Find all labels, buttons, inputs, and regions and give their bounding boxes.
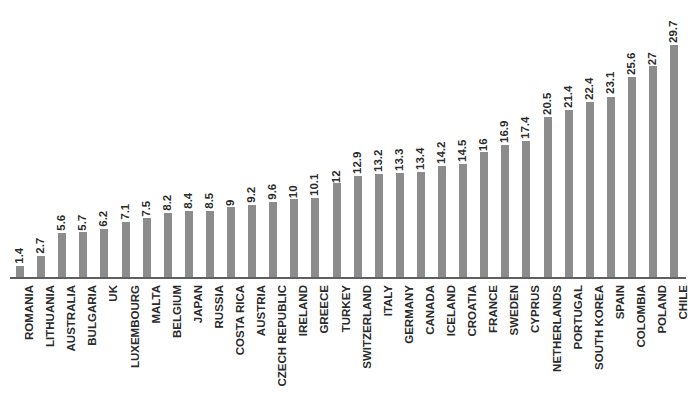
bar[interactable] [501,145,509,277]
bar-slot: 8.4 [179,0,199,279]
bar-slot: 7.5 [137,0,157,279]
category-label-slot: RUSSIA [200,281,220,415]
bar-slot: 20.5 [538,0,558,279]
plot-area: 1.42.75.65.76.27.17.58.28.48.599.29.6101… [0,0,699,279]
bar-value-label: 8.5 [204,192,216,208]
bar[interactable] [607,97,615,277]
bar[interactable] [290,199,298,277]
bar[interactable] [185,211,193,277]
bar-value-label: 29.7 [668,20,680,42]
bar-slot: 10 [284,0,304,279]
bar[interactable] [164,213,172,277]
category-label-slot: JAPAN [179,281,199,415]
bar-value-label: 13.4 [415,148,427,170]
bar-slot: 9 [221,0,241,279]
bar[interactable] [58,233,66,277]
bar[interactable] [628,77,636,277]
category-label-slot: GERMANY [390,281,410,415]
bar-value-label: 14.2 [436,141,448,163]
bar[interactable] [16,266,24,277]
bar[interactable] [122,222,130,277]
bar-slot: 16.9 [495,0,515,279]
bar[interactable] [649,66,657,277]
bar-slot: 23.1 [601,0,621,279]
bar-value-label: 2.7 [35,238,47,254]
bar-slot: 12.9 [348,0,368,279]
category-label-slot: TURKEY [327,281,347,415]
bar-slot: 21.4 [559,0,579,279]
bar[interactable] [459,164,467,277]
bar-slot: 22.4 [580,0,600,279]
bar-slot: 10.1 [305,0,325,279]
bar-value-label: 16.9 [500,120,512,142]
bar[interactable] [375,174,383,277]
bar[interactable] [248,205,256,277]
bar[interactable] [143,218,151,277]
bar[interactable] [396,173,404,277]
bar-value-label: 9.2 [246,187,258,203]
bar-slot: 13.2 [369,0,389,279]
bar-value-label: 12 [331,170,343,183]
category-label-slot: ROMANIA [10,281,30,415]
bar-value-label: 22.4 [584,77,596,99]
bar-value-label: 5.7 [78,214,90,230]
bar-value-label: 25.6 [626,52,638,74]
bar[interactable] [354,176,362,277]
bar-value-label: 8.4 [183,193,195,209]
category-label-slot: ITALY [369,281,389,415]
bar[interactable] [227,207,235,277]
bar-slot: 7.1 [116,0,136,279]
category-label-slot: UK [94,281,114,415]
category-label-slot: LUXEMBOURG [116,281,136,415]
category-label-slot: AUSTRALIA [52,281,72,415]
bar[interactable] [586,102,594,277]
category-label-slot: MALTA [137,281,157,415]
bar-value-label: 7.1 [120,203,132,219]
bar-value-label: 6.2 [99,210,111,226]
bar-slot: 9.2 [242,0,262,279]
bar-slot: 13.3 [390,0,410,279]
bar-value-label: 13.3 [394,148,406,170]
bar[interactable] [544,117,552,277]
bar-value-label: 10.1 [310,173,322,195]
bar-value-label: 10 [289,186,301,199]
bar[interactable] [79,232,87,277]
bar-value-label: 14.5 [457,139,469,161]
bar[interactable] [670,45,678,277]
category-label-slot: CANADA [411,281,431,415]
bar-value-label: 17.4 [521,116,533,138]
bar[interactable] [269,202,277,277]
category-label-slot: SPAIN [601,281,621,415]
category-label-slot: CHILE [664,281,684,415]
category-label-slot: COSTA RICA [221,281,241,415]
category-label-slot: LITHUANIA [31,281,51,415]
category-label-slot: IRELAND [284,281,304,415]
bar-value-label: 21.4 [563,85,575,107]
bar[interactable] [522,141,530,277]
bar[interactable] [417,172,425,277]
bar[interactable] [333,183,341,277]
bar[interactable] [311,198,319,277]
bar-slot: 27 [643,0,663,279]
bar[interactable] [565,110,573,277]
category-label-slot: FRANCE [474,281,494,415]
category-label-slot: BULGARIA [73,281,93,415]
category-label-slot: BELGIUM [158,281,178,415]
bar[interactable] [480,152,488,277]
category-label-slot: SWITZERLAND [348,281,368,415]
category-label-text: CHILE [678,285,690,320]
category-label-slot: POLAND [643,281,663,415]
category-label-slot: GREECE [305,281,325,415]
bar[interactable] [37,256,45,277]
bar[interactable] [206,211,214,277]
bar[interactable] [100,229,108,277]
bar-slot: 2.7 [31,0,51,279]
bar-value-label: 23.1 [605,72,617,94]
bar-value-label: 13.2 [373,149,385,171]
bar[interactable] [438,166,446,277]
bar-slot: 6.2 [94,0,114,279]
bar-value-label: 20.5 [542,92,554,114]
x-axis-baseline [10,277,686,279]
bar-slot: 29.7 [664,0,684,279]
bar-slot: 9.6 [263,0,283,279]
